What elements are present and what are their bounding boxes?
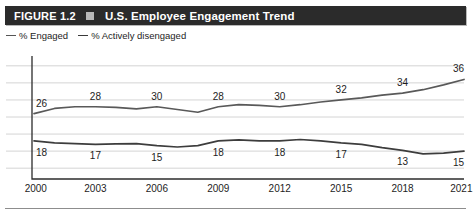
legend-label-actively-disengaged: % Actively disengaged [91,30,186,41]
figure-title: U.S. Employee Engagement Trend [105,10,295,22]
x-axis-labels: 20002003200620092012201520182021 [6,183,470,199]
data-label: 36 [453,63,465,74]
x-axis-tick-label: 2009 [207,183,229,194]
data-label: 30 [151,91,163,102]
data-label: 32 [336,84,348,95]
data-label: 18 [274,147,286,158]
data-label: 15 [151,152,163,163]
chart-legend: % Engaged % Actively disengaged [6,30,192,41]
x-axis-tick-label: 2003 [84,183,106,194]
data-label: 17 [336,149,348,160]
x-axis-tick-label: 2006 [146,183,168,194]
data-label: 28 [90,91,102,102]
legend-item-actively-disengaged: % Actively disengaged [78,30,186,41]
x-axis-tick-label: 2015 [330,183,352,194]
legend-item-engaged: % Engaged [6,30,68,41]
legend-label-engaged: % Engaged [19,30,68,41]
legend-dash-icon [78,35,88,36]
figure-container: FIGURE 1.2 U.S. Employee Engagement Tren… [0,0,476,222]
data-label: 30 [274,91,286,102]
x-axis-tick-label: 2018 [391,183,413,194]
x-axis-tick-label: 2021 [450,183,472,194]
x-axis-tick-label: 2000 [25,183,47,194]
legend-dash-icon [6,35,16,36]
data-label: 18 [213,147,225,158]
data-label: 34 [397,77,409,88]
data-label: 13 [397,156,409,167]
line-chart-svg: 26283028303234361817151818171315 [6,55,470,181]
figure-number: FIGURE 1.2 [14,10,76,22]
figure-title-bar: FIGURE 1.2 U.S. Employee Engagement Tren… [5,6,466,25]
data-label: 18 [36,147,48,158]
data-label: 15 [453,157,465,168]
chart-plot-area: 26283028303234361817151818171315 [6,55,470,181]
bottom-divider [5,208,466,209]
square-bullet-icon [86,12,94,20]
data-label: 17 [90,150,102,161]
data-label: 28 [213,91,225,102]
x-axis-tick-label: 2012 [269,183,291,194]
data-label: 26 [36,98,48,109]
